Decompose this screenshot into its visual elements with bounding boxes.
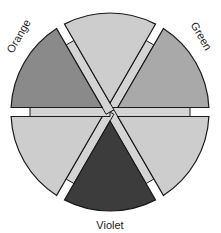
label-orange: Orange: [4, 17, 33, 55]
wheel-band-1: [110, 108, 190, 117]
label-green: Green: [189, 20, 215, 52]
color-wheel-diagram: Green Orange Violet: [0, 0, 221, 233]
label-violet: Violet: [96, 219, 123, 231]
wheel-band-4: [30, 108, 110, 117]
